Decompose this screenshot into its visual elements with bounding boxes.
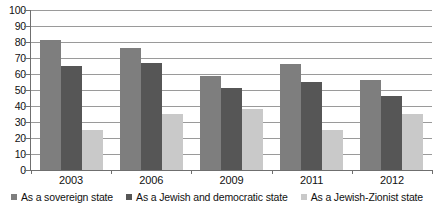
legend-swatch-icon: [126, 194, 132, 200]
y-tick-mark: [24, 122, 30, 123]
x-tick-mark: [191, 170, 192, 174]
y-tick-mark: [24, 26, 30, 27]
legend-swatch-icon: [11, 194, 17, 200]
bar-group-2006: [111, 10, 191, 170]
legend-label: As a Jewish-Zionist state: [311, 191, 423, 203]
bar: [120, 48, 141, 170]
legend-item[interactable]: As a sovereign state: [11, 191, 113, 203]
bar: [280, 64, 301, 170]
x-tick-mark: [272, 170, 273, 174]
x-tick-label: 2003: [31, 174, 111, 187]
y-tick-mark: [24, 106, 30, 107]
x-axis-tick-labels: 20032006200920112012: [31, 174, 432, 187]
x-tick-mark: [432, 170, 433, 174]
bar: [221, 88, 242, 170]
y-tick-mark: [24, 10, 30, 11]
x-tick-label: 2012: [352, 174, 432, 187]
y-tick-mark: [24, 170, 30, 171]
legend-swatch-icon: [301, 194, 307, 200]
bar: [141, 63, 162, 170]
bar: [360, 80, 381, 170]
bar-group-2003: [31, 10, 111, 170]
x-tick-label: 2011: [272, 174, 352, 187]
bar: [402, 114, 423, 170]
x-axis-line: [30, 170, 432, 171]
y-tick-mark: [24, 42, 30, 43]
bar-groups: [31, 10, 432, 170]
legend-label: As a sovereign state: [21, 191, 113, 203]
legend-label: As a Jewish and democratic state: [136, 191, 288, 203]
bar: [242, 109, 263, 170]
bar-group-2009: [191, 10, 271, 170]
bar: [40, 40, 61, 170]
y-tick-mark: [24, 74, 30, 75]
bar: [301, 82, 322, 170]
y-tick-mark: [24, 58, 30, 59]
x-tick-label: 2009: [191, 174, 271, 187]
plot-wrapper: 1009080706050403020100 20032006200920112…: [0, 0, 434, 180]
legend-item[interactable]: As a Jewish and democratic state: [126, 191, 288, 203]
chart-legend: As a sovereign stateAs a Jewish and demo…: [0, 191, 434, 203]
x-tick-label: 2006: [111, 174, 191, 187]
bar-chart: 1009080706050403020100 20032006200920112…: [0, 0, 434, 208]
bar: [61, 66, 82, 170]
x-tick-mark: [111, 170, 112, 174]
bar: [200, 76, 221, 170]
x-tick-mark: [31, 170, 32, 174]
legend-item[interactable]: As a Jewish-Zionist state: [301, 191, 423, 203]
bar: [322, 130, 343, 170]
y-tick-mark: [24, 138, 30, 139]
y-tick-mark: [24, 154, 30, 155]
bar: [381, 96, 402, 170]
bar: [82, 130, 103, 170]
bar-group-2011: [272, 10, 352, 170]
y-tick-mark: [24, 90, 30, 91]
x-tick-mark: [352, 170, 353, 174]
bar-group-2012: [352, 10, 432, 170]
bar: [162, 114, 183, 170]
